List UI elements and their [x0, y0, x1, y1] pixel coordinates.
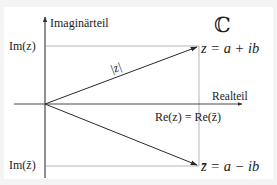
complex-plane-diagram: ℂ Imaginärteil Realteil Im(z) Im(z̄) Re(…: [0, 0, 277, 185]
z-definition-label: z = a + ib: [200, 40, 259, 56]
im-z-label: Im(z): [9, 39, 36, 53]
z-vector-arrow: [45, 47, 197, 104]
re-equality-label: Re(z) = Re(z̄): [155, 110, 221, 124]
im-zbar-label: Im(z̄): [9, 158, 36, 172]
zbar-definition-label: z̄ = a − ib: [200, 158, 259, 174]
imaginary-axis-label: Imaginärteil: [50, 16, 109, 30]
complex-numbers-symbol: ℂ: [214, 13, 231, 37]
real-axis-label: Realteil: [212, 90, 248, 102]
modulus-label: |z|: [108, 59, 124, 76]
